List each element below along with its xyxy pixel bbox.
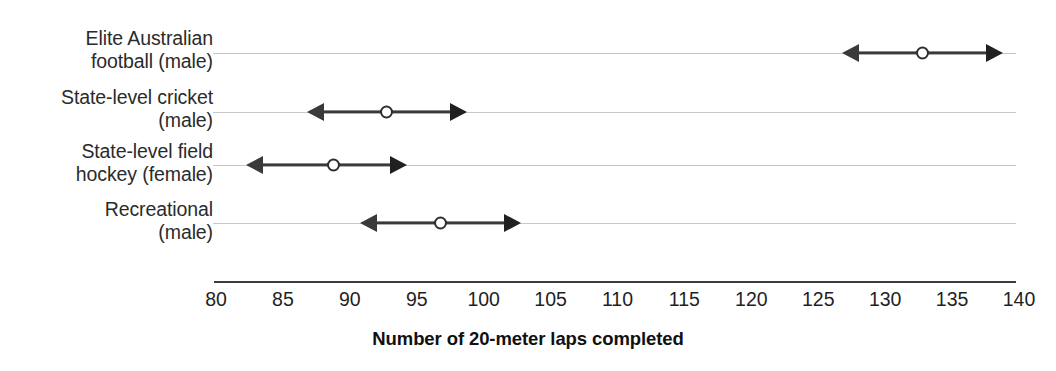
range-arrow-right-icon [986, 44, 1003, 62]
x-axis-line [214, 281, 1016, 283]
range-plot-figure: Elite Australian football (male) State-l… [0, 0, 1056, 371]
x-tick-label-85: 85 [272, 288, 294, 310]
x-axis-title: Number of 20-meter laps completed [0, 328, 1056, 350]
data-point-marker [434, 217, 447, 230]
plot-area [213, 0, 1016, 282]
range-row-3 [213, 210, 1016, 236]
x-tick-label-140: 140 [1003, 288, 1036, 310]
x-tick-label-90: 90 [339, 288, 361, 310]
range-row-2 [213, 152, 1016, 178]
category-label-0: Elite Australian football (male) [86, 27, 213, 73]
range-row-0 [213, 40, 1016, 66]
x-tick-label-115: 115 [669, 288, 700, 310]
x-tick-label-125: 125 [802, 288, 835, 310]
x-tick-label-95: 95 [406, 288, 428, 310]
x-tick-label-105: 105 [534, 288, 567, 310]
data-point-marker [327, 159, 340, 172]
range-arrow-left-icon [842, 44, 859, 62]
x-tick-label-100: 100 [467, 288, 500, 310]
range-arrow-right-icon [390, 156, 407, 174]
x-tick-label-120: 120 [735, 288, 768, 310]
range-arrow-left-icon [360, 214, 377, 232]
category-label-1: State-level cricket (male) [61, 86, 213, 132]
range-arrow-right-icon [450, 103, 467, 121]
category-label-3: Recreational (male) [105, 198, 213, 244]
x-tick-label-80: 80 [205, 288, 227, 310]
data-point-marker [380, 106, 393, 119]
range-arrow-left-icon [307, 103, 324, 121]
range-arrow-left-icon [246, 156, 263, 174]
range-row-1 [213, 99, 1016, 125]
category-label-2: State-level field hockey (female) [76, 140, 213, 186]
x-tick-label-130: 130 [869, 288, 902, 310]
data-point-marker [916, 47, 929, 60]
x-tick-label-135: 135 [936, 288, 969, 310]
x-tick-label-110: 110 [602, 288, 633, 310]
range-arrow-right-icon [504, 214, 521, 232]
